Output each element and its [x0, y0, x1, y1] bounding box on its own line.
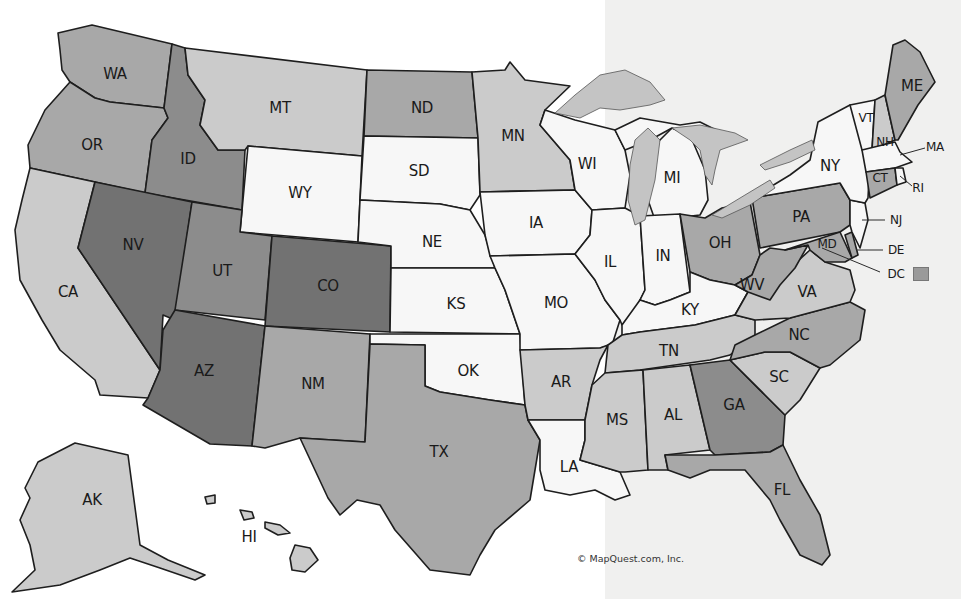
state-label-tx: TX	[429, 443, 449, 461]
state-label-ri: RI	[912, 181, 923, 195]
state-label-va: VA	[798, 283, 818, 301]
state-label-sc: SC	[769, 368, 788, 386]
state-label-ok: OK	[457, 362, 480, 380]
state-label-hi: HI	[241, 528, 256, 546]
state-label-mt: MT	[269, 99, 292, 117]
state-label-md: MD	[818, 237, 837, 251]
state-label-ak: AK	[82, 491, 103, 509]
state-label-ga: GA	[723, 396, 745, 414]
state-label-nh: NH	[876, 135, 893, 149]
state-label-nv: NV	[123, 236, 145, 254]
state-ak[interactable]	[12, 443, 205, 592]
state-label-mo: MO	[544, 294, 568, 312]
dc-swatch	[913, 267, 929, 281]
us-states-map: WAORCAIDNVMTWYUTCOAZNMNDSDNEKSOKTXMNIAMO…	[0, 0, 961, 599]
state-label-ne: NE	[422, 233, 442, 251]
state-fl[interactable]	[665, 445, 830, 565]
state-label-ut: UT	[212, 262, 233, 280]
state-label-wy: WY	[288, 184, 313, 202]
leader-ma	[900, 148, 925, 155]
state-label-or: OR	[81, 136, 103, 154]
state-label-pa: PA	[792, 208, 811, 226]
state-label-me: ME	[901, 77, 923, 95]
state-label-ny: NY	[820, 157, 841, 175]
state-label-nm: NM	[301, 375, 325, 393]
state-label-fl: FL	[774, 481, 791, 499]
state-label-nd: ND	[411, 99, 433, 117]
state-label-al: AL	[664, 406, 683, 424]
lake-superior	[555, 70, 665, 118]
state-label-tn: TN	[658, 342, 679, 360]
state-hi[interactable]	[290, 545, 318, 572]
state-label-ky: KY	[681, 301, 700, 319]
state-label-nc: NC	[788, 326, 809, 344]
state-label-wv: WV	[740, 276, 766, 294]
state-label-dc: DC	[887, 267, 904, 281]
state-label-az: AZ	[194, 362, 214, 380]
state-label-vt: VT	[859, 111, 875, 125]
state-label-ar: AR	[551, 373, 571, 391]
state-label-sd: SD	[409, 162, 429, 180]
state-label-ca: CA	[58, 283, 79, 301]
state-label-ms: MS	[606, 411, 628, 429]
state-label-wa: WA	[103, 65, 128, 83]
state-label-il: IL	[604, 253, 617, 271]
state-label-oh: OH	[709, 234, 732, 252]
state-label-ia: IA	[529, 214, 544, 232]
state-label-nj: NJ	[890, 213, 902, 227]
state-label-wi: WI	[578, 155, 597, 173]
state-label-ma: MA	[926, 140, 945, 154]
copyright-text: © MapQuest.com, Inc.	[577, 553, 684, 564]
state-label-ct: CT	[872, 171, 888, 185]
state-label-mi: MI	[664, 169, 681, 187]
state-label-id: ID	[180, 150, 195, 168]
state-hi-4	[205, 495, 215, 504]
state-label-ks: KS	[447, 295, 466, 313]
state-label-co: CO	[317, 277, 339, 295]
state-label-in: IN	[655, 247, 670, 265]
state-hi-3	[265, 522, 290, 535]
state-label-mn: MN	[501, 127, 525, 145]
state-label-la: LA	[560, 458, 579, 476]
state-label-de: DE	[888, 243, 904, 257]
state-hi-2	[240, 510, 254, 520]
